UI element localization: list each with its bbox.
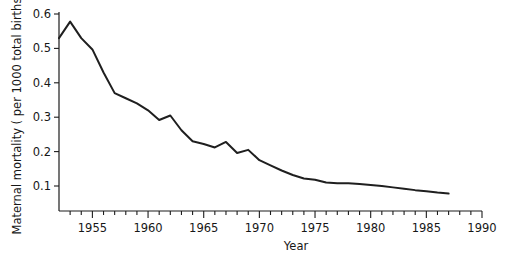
y-tick-label: 0.2	[33, 145, 51, 159]
y-axis-tick-labels: 0.10.20.30.40.50.6	[33, 7, 51, 193]
x-tick-label: 1980	[356, 221, 385, 235]
maternal-mortality-line-chart: 0.10.20.30.40.50.6 195519601965197019751…	[0, 0, 515, 258]
y-tick-label: 0.5	[33, 41, 51, 55]
x-tick-label: 1990	[467, 221, 496, 235]
x-tick-label: 1955	[78, 221, 107, 235]
x-tick-label: 1960	[133, 221, 162, 235]
x-axis-tick-labels: 19551960196519701975198019851990	[78, 221, 497, 235]
x-axis: 19551960196519701975198019851990	[59, 211, 497, 235]
x-axis-ticks	[70, 211, 482, 218]
y-axis-title: Maternal mortality ( per 1000 total birt…	[10, 0, 24, 235]
y-tick-label: 0.3	[33, 110, 51, 124]
y-axis-ticks	[54, 14, 59, 186]
y-tick-label: 0.6	[33, 7, 51, 21]
y-tick-label: 0.1	[33, 179, 51, 193]
data-series-line	[59, 22, 449, 194]
y-axis: 0.10.20.30.40.50.6	[33, 7, 59, 211]
y-tick-label: 0.4	[33, 76, 51, 90]
x-tick-label: 1975	[300, 221, 329, 235]
x-tick-label: 1970	[245, 221, 274, 235]
chart-figure: 0.10.20.30.40.50.6 195519601965197019751…	[0, 0, 515, 258]
x-axis-title: Year	[283, 239, 309, 253]
x-tick-label: 1985	[412, 221, 441, 235]
x-tick-label: 1965	[189, 221, 218, 235]
